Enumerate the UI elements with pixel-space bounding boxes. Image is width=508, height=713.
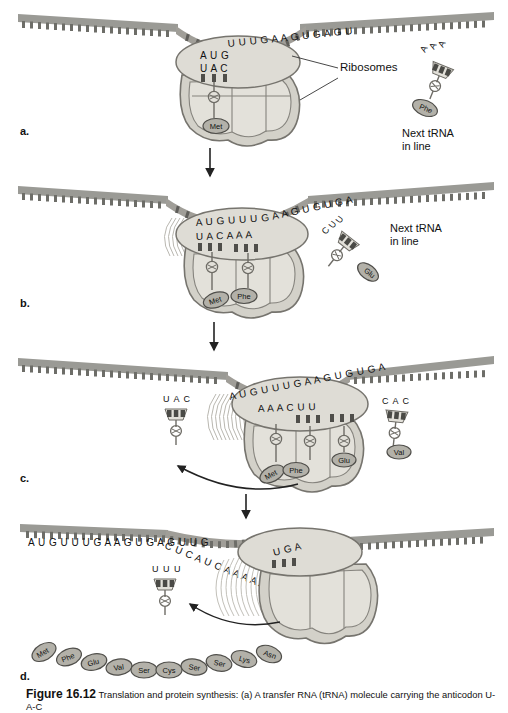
next-trna-note-a-line2: in line	[402, 140, 431, 152]
figure-caption: Figure 16.12 Translation and protein syn…	[26, 688, 502, 713]
ribosomes-label: Ribosomes	[340, 61, 398, 73]
svg-text:Ser: Ser	[138, 666, 150, 675]
figure-number: Figure 16.12	[26, 687, 96, 701]
panel-c-artwork: A U G U U U G A A G U G U G A A A A C U …	[18, 356, 494, 518]
panel-letter-b: b.	[20, 297, 30, 309]
svg-text:Val: Val	[394, 448, 405, 457]
next-trna-note-b-line1: Next tRNA	[390, 222, 442, 234]
svg-text:U A C: U A C	[200, 63, 228, 74]
svg-text:U U U G A A G U G A G U: U U U G A A G U G A G U	[227, 25, 353, 49]
svg-text:U U U: U U U	[152, 564, 182, 574]
svg-text:Met: Met	[210, 122, 223, 131]
svg-text:A: A	[436, 38, 448, 49]
polypeptide-chain: Met Phe Glu Val Ser Cys Ser Ser Lys Asn	[29, 639, 284, 678]
svg-text:Val: Val	[113, 662, 125, 672]
panel-letter-c: c.	[20, 472, 29, 484]
svg-text:U A C: U A C	[163, 394, 191, 404]
svg-text:Cys: Cys	[163, 666, 176, 675]
svg-text:C A C: C A C	[382, 396, 410, 406]
svg-text:Ser: Ser	[188, 662, 201, 673]
next-trna-note-b: Next tRNA in line	[390, 222, 442, 248]
svg-text:A A A C U U: A A A C U U	[258, 401, 317, 414]
panel-letter-a: a.	[20, 125, 29, 137]
svg-text:A U G: A U G	[200, 50, 229, 61]
next-trna-note-b-line2: in line	[390, 235, 419, 247]
next-trna-note-a-line1: Next tRNA	[402, 127, 454, 139]
svg-text:Phe: Phe	[237, 292, 250, 301]
panel-letter-d: d.	[20, 670, 30, 682]
svg-text:Glu: Glu	[338, 456, 350, 465]
svg-text:Phe: Phe	[289, 466, 302, 475]
figure-caption-text: Translation and protein synthesis: (a) A…	[26, 689, 495, 712]
svg-text:U A C A A A: U A C A A A	[196, 229, 253, 242]
panel-b-artwork: A U G U U U U A C A A A G A A G U G U G …	[18, 182, 494, 350]
next-trna-note-a: Next tRNA in line	[402, 127, 454, 153]
panel-d-artwork: A U G U U U G A A G U G A G U U G C U C …	[20, 524, 494, 678]
